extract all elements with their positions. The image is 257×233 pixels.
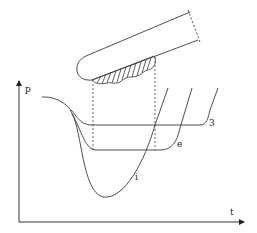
curve-3 [42, 88, 218, 125]
axes: p t [19, 81, 244, 222]
y-axis-label: p [25, 84, 31, 94]
pressure-time-diagram: p t 3 e i [0, 0, 257, 233]
tube-icon [77, 10, 200, 80]
hatched-deposit [92, 56, 155, 84]
curve-i-label: i [135, 172, 138, 182]
x-axis-label: t [230, 207, 234, 217]
curve-e-label: e [177, 139, 182, 149]
tube-open-end [188, 10, 200, 42]
curve-e [70, 88, 192, 150]
curve-3-label: 3 [209, 118, 215, 128]
tube-outline [77, 12, 198, 80]
